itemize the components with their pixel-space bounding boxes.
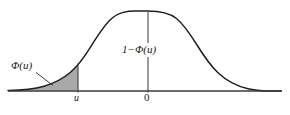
shaded-area-label: Φ(u) bbox=[11, 60, 32, 71]
upper-area-label: 1−Φ(u) bbox=[121, 44, 157, 55]
leader-line-phi-u bbox=[36, 73, 53, 86]
normal-distribution-figure: Φ(u) 1−Φ(u) u 0 bbox=[0, 0, 290, 115]
x-axis-tick-label-u: u bbox=[74, 93, 79, 103]
x-axis-tick-label-zero: 0 bbox=[144, 92, 150, 103]
